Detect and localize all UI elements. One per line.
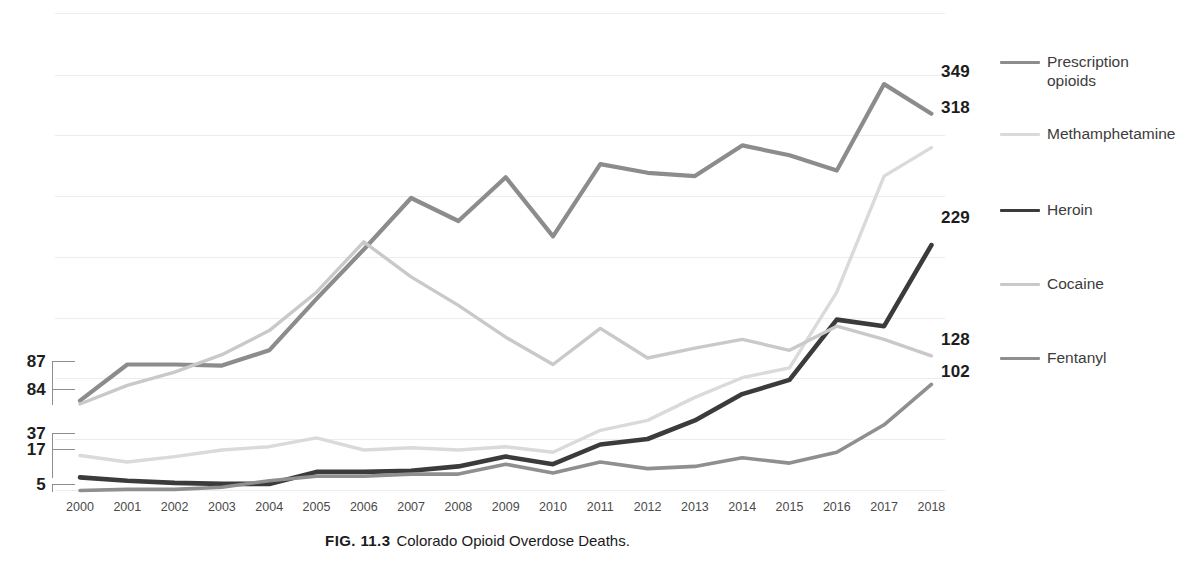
start-label-cocaine: 84 [0,380,46,400]
legend-swatch-cocaine-icon [1000,283,1040,286]
x-tick-2013: 2013 [674,500,716,514]
line-methamphetamine [80,148,931,462]
x-tick-2016: 2016 [816,500,858,514]
line-cocaine [80,242,931,404]
legend-label-methamphetamine: Methamphetamine [1047,124,1175,143]
x-axis-ticks: 2000200120022003200420052006200720082009… [0,500,955,522]
legend-item-fentanyl[interactable]: Fentanyl [1000,348,1106,367]
x-tick-2011: 2011 [579,500,621,514]
start-label-prescription-opioids: 87 [0,352,46,372]
x-tick-2009: 2009 [485,500,527,514]
end-label-cocaine: 128 [941,330,970,350]
legend-item-prescription-opioids[interactable]: Prescription opioids [1000,52,1129,90]
x-tick-2014: 2014 [721,500,763,514]
start-label-heroin: 17 [0,440,46,460]
x-tick-2002: 2002 [154,500,196,514]
start-leader-heroin [52,449,75,478]
end-label-prescription-opioids: 349 [941,62,970,82]
legend-swatch-prescription-opioids-icon [1000,61,1040,64]
legend-swatch-fentanyl-icon [1000,357,1040,360]
x-tick-2015: 2015 [769,500,811,514]
legend-label-prescription-opioids: Prescription opioids [1047,52,1129,90]
legend-label-cocaine: Cocaine [1047,274,1104,293]
chart-lines [0,0,955,498]
legend-swatch-heroin-icon [1000,209,1040,212]
x-tick-2007: 2007 [390,500,432,514]
legend-item-cocaine[interactable]: Cocaine [1000,274,1104,293]
x-tick-2010: 2010 [532,500,574,514]
x-tick-2018: 2018 [910,500,952,514]
x-tick-2008: 2008 [437,500,479,514]
end-label-methamphetamine: 318 [941,98,970,118]
legend-item-heroin[interactable]: Heroin [1000,200,1093,219]
x-tick-2003: 2003 [201,500,243,514]
figure-caption-text: Colorado Opioid Overdose Deaths. [396,532,629,549]
line-fentanyl [80,384,931,490]
legend-swatch-methamphetamine-icon [1000,133,1040,136]
end-label-fentanyl: 102 [941,362,970,382]
x-tick-2006: 2006 [343,500,385,514]
line-prescription-opioids [80,84,931,401]
legend-label-heroin: Heroin [1047,200,1093,219]
figure-number: FIG. 11.3 [325,532,390,549]
start-label-fentanyl: 5 [0,475,46,495]
x-tick-2012: 2012 [627,500,669,514]
figure-caption: FIG. 11.3Colorado Opioid Overdose Deaths… [0,532,955,549]
x-tick-2005: 2005 [296,500,338,514]
legend-item-methamphetamine[interactable]: Methamphetamine [1000,124,1175,143]
x-tick-2004: 2004 [248,500,290,514]
chart-plot-area [0,0,955,498]
legend-label-fentanyl: Fentanyl [1047,348,1106,367]
x-tick-2000: 2000 [59,500,101,514]
start-leader-cocaine [52,389,75,405]
x-tick-2001: 2001 [106,500,148,514]
figure-container: 878437175 349318229128102 20002001200220… [0,0,1186,562]
start-leader-fentanyl [52,484,75,492]
end-label-heroin: 229 [941,208,970,228]
x-tick-2017: 2017 [863,500,905,514]
